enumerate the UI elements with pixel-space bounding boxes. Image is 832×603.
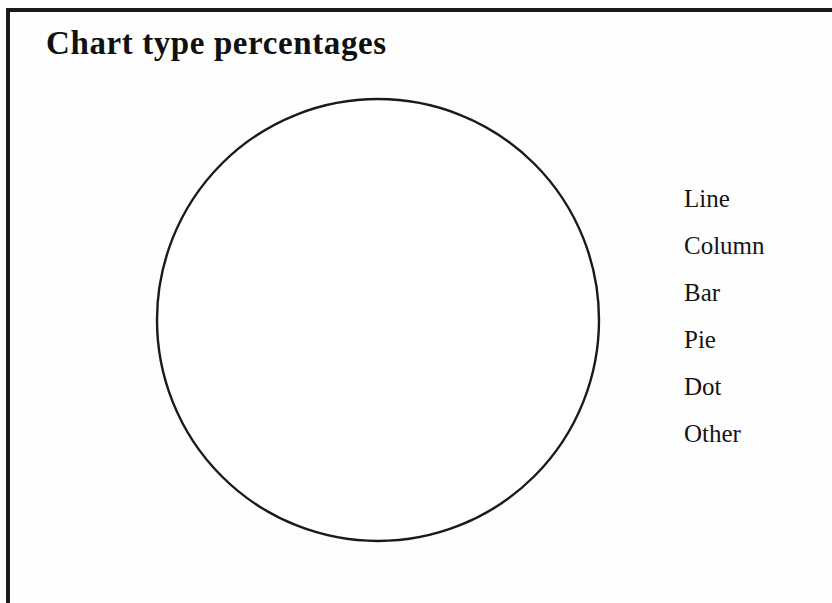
chart-title: Chart type percentages — [46, 26, 387, 62]
legend-item-label: Dot — [684, 372, 722, 402]
figure-screenshot: Chart type percentages Line Column Bar P… — [0, 0, 832, 603]
legend-item-pie: Pie — [684, 325, 824, 372]
legend-item-label: Pie — [684, 325, 716, 355]
legend-item-label: Other — [684, 419, 741, 449]
legend-item-column: Column — [684, 231, 824, 278]
legend-item-label: Bar — [684, 278, 720, 308]
pie-outline-circle — [157, 99, 599, 541]
legend-item-line: Line — [684, 184, 824, 231]
pie-chart-svg — [150, 88, 610, 558]
legend-item-bar: Bar — [684, 278, 824, 325]
figure-frame-top-rule — [6, 8, 832, 12]
legend-item-label: Column — [684, 231, 765, 261]
legend-item-label: Line — [684, 184, 730, 214]
legend-item-dot: Dot — [684, 372, 824, 419]
legend: Line Column Bar Pie Dot Other — [684, 184, 824, 466]
pie-chart-area — [150, 88, 610, 558]
legend-item-other: Other — [684, 419, 824, 466]
figure-frame-left-rule — [6, 8, 10, 603]
